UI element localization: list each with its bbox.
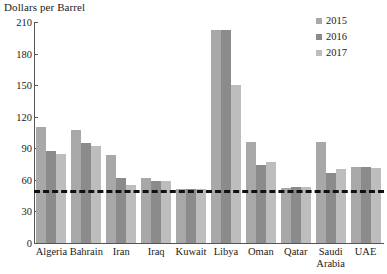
- x-axis-tick-label: Bahrain: [69, 246, 104, 258]
- bar-algeria-2017: [56, 154, 66, 243]
- x-axis-tick-label: Oman: [243, 246, 278, 258]
- bar-oman-2017: [266, 162, 276, 243]
- legend-item-label: 2017: [326, 47, 347, 58]
- bar-bahrain-2017: [91, 146, 101, 243]
- x-axis-tick-label: Qatar: [278, 246, 313, 258]
- bar-libya-2016: [221, 30, 231, 243]
- legend-item-2016[interactable]: 2016: [316, 30, 347, 43]
- bar-libya-2017: [231, 85, 241, 243]
- bar-saudi-arabia-2016: [326, 173, 336, 244]
- legend-item-label: 2016: [326, 31, 347, 42]
- bar-group: [243, 22, 278, 243]
- bar-qatar-2017: [301, 187, 311, 243]
- bar-algeria-2016: [46, 151, 56, 243]
- bar-iran-2015: [106, 155, 116, 243]
- y-axis-tick-label: 120: [0, 111, 32, 122]
- legend-item-2017[interactable]: 2017: [316, 46, 347, 59]
- bar-qatar-2015: [281, 188, 291, 243]
- legend-swatch-icon: [316, 18, 322, 24]
- bar-group: [348, 22, 383, 243]
- bar-bahrain-2015: [71, 130, 81, 243]
- bar-group: [174, 22, 209, 243]
- bar-kuwait-2016: [186, 189, 196, 243]
- bar-group: [34, 22, 69, 243]
- bar-oman-2016: [256, 165, 266, 243]
- x-axis-tick-label: UAE: [348, 246, 383, 258]
- x-axis-line: [34, 243, 384, 244]
- chart-legend: 201520162017: [316, 14, 347, 59]
- threshold-line: [34, 190, 384, 193]
- legend-item-2015[interactable]: 2015: [316, 14, 347, 27]
- bar-group: [69, 22, 104, 243]
- bar-group: [278, 22, 313, 243]
- bar-qatar-2016: [291, 187, 301, 243]
- bar-saudi-arabia-2017: [336, 169, 346, 243]
- bar-chart: Dollars per Barrel 0306090120150180210 A…: [0, 0, 387, 274]
- x-axis-tick-label: Kuwait: [174, 246, 209, 258]
- bar-group: [104, 22, 139, 243]
- bar-algeria-2015: [36, 127, 46, 243]
- y-axis-tick-label: 0: [0, 238, 32, 249]
- chart-title: Dollars per Barrel: [4, 1, 85, 13]
- bar-kuwait-2015: [176, 189, 186, 243]
- bar-iraq-2015: [141, 178, 151, 243]
- bar-kuwait-2017: [196, 189, 206, 243]
- y-axis-tick-label: 210: [0, 17, 32, 28]
- legend-swatch-icon: [316, 34, 322, 40]
- bar-group: [209, 22, 244, 243]
- legend-item-label: 2015: [326, 15, 347, 26]
- y-axis-tick-mark: [34, 243, 38, 244]
- y-axis-tick-label: 30: [0, 206, 32, 217]
- bar-uae-2017: [371, 168, 381, 243]
- y-axis-tick-label: 90: [0, 143, 32, 154]
- x-axis-tick-label: Iraq: [139, 246, 174, 258]
- x-axis-tick-label: Algeria: [34, 246, 69, 258]
- bar-uae-2016: [361, 167, 371, 243]
- y-axis-tick-label: 180: [0, 48, 32, 59]
- bar-iran-2017: [126, 185, 136, 243]
- x-axis-tick-label: Saudi Arabia: [313, 246, 348, 269]
- bar-libya-2015: [211, 30, 221, 243]
- x-axis-tick-label: Libya: [209, 246, 244, 258]
- y-axis-tick-label: 150: [0, 80, 32, 91]
- legend-swatch-icon: [316, 50, 322, 56]
- x-axis-tick-label: Iran: [104, 246, 139, 258]
- bar-uae-2015: [351, 167, 361, 243]
- bar-iran-2016: [116, 178, 126, 243]
- y-axis-tick-label: 60: [0, 174, 32, 185]
- bar-group: [139, 22, 174, 243]
